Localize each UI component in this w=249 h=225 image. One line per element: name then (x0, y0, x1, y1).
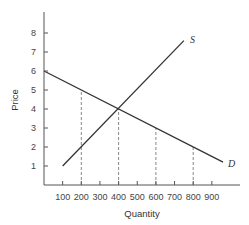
y-tick-label: 7 (31, 47, 36, 57)
demand-curve (44, 71, 223, 162)
y-tick-label: 6 (31, 66, 36, 76)
x-tick-label: 400 (111, 192, 126, 202)
x-tick-label: 800 (186, 192, 201, 202)
axes (44, 12, 240, 185)
x-axis-title: Quantity (124, 208, 160, 219)
y-axis-title: Price (9, 89, 20, 111)
y-tick-label: 5 (31, 85, 36, 95)
ticks: 10020030040050060070080090012345678 (31, 28, 219, 202)
supply-demand-chart: SD 10020030040050060070080090012345678 Q… (0, 0, 249, 225)
x-tick-label: 600 (148, 192, 163, 202)
y-tick-label: 1 (31, 161, 36, 171)
curves: SD (44, 34, 236, 170)
x-tick-label: 500 (130, 192, 145, 202)
y-tick-label: 8 (31, 28, 36, 38)
x-tick-label: 100 (55, 192, 70, 202)
x-tick-label: 300 (92, 192, 107, 202)
x-tick-label: 900 (204, 192, 219, 202)
x-tick-label: 700 (167, 192, 182, 202)
y-tick-label: 2 (31, 142, 36, 152)
demand-curve-label: D (227, 158, 236, 169)
dashed-guides (81, 90, 193, 185)
x-tick-label: 200 (74, 192, 89, 202)
supply-curve-label: S (190, 34, 195, 45)
y-tick-label: 3 (31, 123, 36, 133)
y-tick-label: 4 (31, 104, 36, 114)
